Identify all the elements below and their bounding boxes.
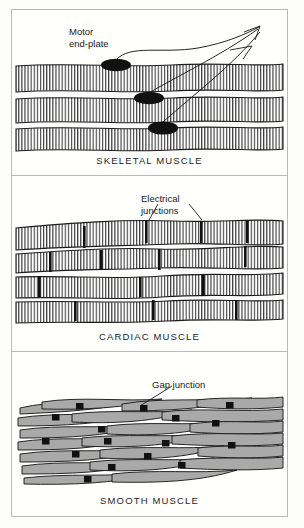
label-gap-junction: Gap junction [152, 379, 205, 391]
gap-junction [72, 451, 80, 458]
gap-junction [52, 414, 60, 421]
gap-junction [108, 464, 116, 471]
smooth-cell [180, 457, 283, 470]
intercalated-disc [235, 300, 238, 320]
smooth-cell [162, 409, 283, 422]
intercalated-disc [246, 220, 249, 243]
smooth-cell [190, 421, 283, 434]
leader-line [189, 204, 202, 220]
motor-end-plate [101, 59, 131, 71]
smooth-cell [198, 445, 283, 458]
gap-junction [226, 402, 234, 409]
caption-skeletal-muscle: SKELETAL MUSCLE [12, 155, 287, 166]
gap-junction [42, 438, 50, 445]
gap-junction [162, 440, 170, 447]
intercalated-disc [49, 252, 52, 272]
smooth-cell-group [18, 397, 283, 484]
intercalated-disc [244, 246, 247, 267]
label-motor-end-plate: Motor end-plate [69, 26, 109, 49]
cardiac-fiber-row [16, 300, 283, 323]
gap-junction [76, 403, 84, 410]
motor-end-plate [148, 121, 178, 134]
intercalated-disc [139, 277, 142, 297]
panel-cardiac-muscle: Electrical junctions CARDIAC MUSCLE [12, 176, 287, 352]
gap-junction [84, 476, 92, 483]
gap-junction [172, 415, 180, 422]
intercalated-disc [38, 276, 41, 297]
gap-junction [144, 453, 152, 460]
caption-smooth-muscle: SMOOTH MUSCLE [12, 495, 287, 506]
smooth-cell [172, 433, 283, 446]
label-electrical-junctions: Electrical junctions [141, 193, 180, 216]
intercalated-disc [74, 301, 77, 321]
smooth-cell [112, 470, 237, 482]
figure-frame: Motor end-plate SKELETAL MUSCLE [11, 9, 288, 517]
panel-skeletal-muscle: Motor end-plate SKELETAL MUSCLE [12, 10, 287, 176]
skeletal-diagram [12, 10, 287, 176]
cardiac-fiber-row [16, 246, 283, 273]
gap-junction [98, 426, 106, 433]
gap-junction [228, 442, 236, 449]
intercalated-disc [145, 220, 148, 243]
gap-junction [140, 405, 148, 412]
gap-junction [104, 438, 112, 445]
intercalated-disc [158, 249, 161, 270]
intercalated-disc [202, 275, 205, 296]
skeletal-fiber [16, 64, 283, 92]
gap-junction [178, 462, 186, 469]
caption-cardiac-muscle: CARDIAC MUSCLE [12, 331, 287, 342]
smooth-cell [197, 397, 283, 409]
smooth-diagram [12, 352, 287, 516]
intercalated-disc [100, 250, 103, 270]
nerve-fiber [116, 27, 259, 60]
panel-smooth-muscle: Gap junction SMOOTH MUSCLE [12, 352, 287, 516]
intercalated-disc [152, 300, 155, 320]
cardiac-fiber-row [16, 273, 283, 299]
intercalated-disc [83, 226, 86, 248]
muscle-types-figure: Motor end-plate SKELETAL MUSCLE [0, 0, 304, 528]
intercalated-disc [200, 221, 203, 243]
gap-junction [212, 420, 220, 427]
motor-end-plate [134, 92, 164, 104]
cardiac-fiber-row [16, 220, 283, 250]
